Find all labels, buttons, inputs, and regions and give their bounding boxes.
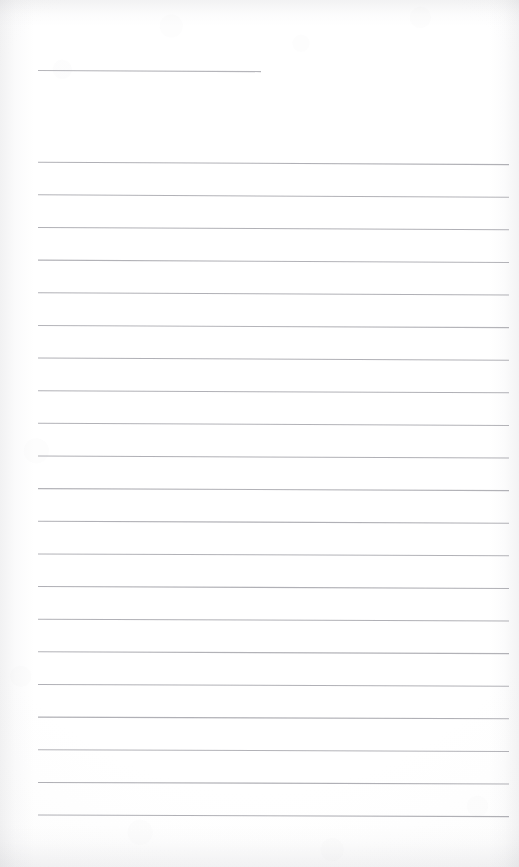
title-rule-group [38, 71, 261, 72]
writing-area[interactable] [38, 150, 509, 830]
scanned-page [0, 0, 519, 867]
title-rule [38, 71, 261, 72]
